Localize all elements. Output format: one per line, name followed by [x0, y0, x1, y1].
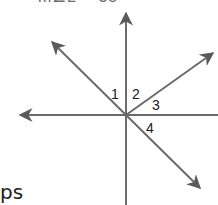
ray-upper-left [52, 42, 126, 115]
angle-label-1: 1 [111, 86, 119, 102]
angle-label-4: 4 [146, 120, 154, 136]
angle-label-3: 3 [152, 97, 160, 113]
ray-lower-right [126, 115, 200, 188]
clipped-footer-text: ps [0, 180, 23, 204]
angle-label-2: 2 [132, 86, 140, 102]
angle-diagram: 1234 [0, 0, 218, 205]
ray-upper-right [126, 53, 213, 115]
